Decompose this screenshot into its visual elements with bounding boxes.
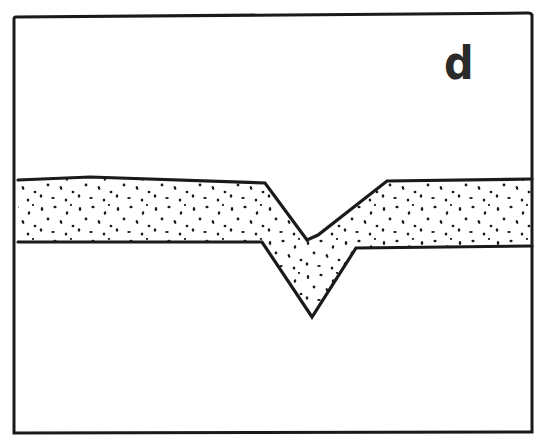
diagram-panel: d [0,0,545,443]
panel-label: d [444,40,474,86]
